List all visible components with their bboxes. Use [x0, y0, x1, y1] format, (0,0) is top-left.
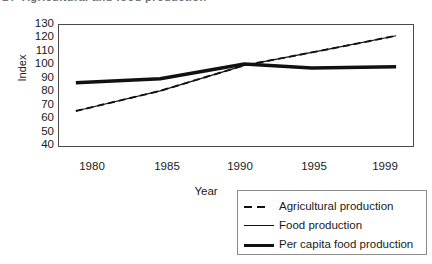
dashed-line-swatch-icon [244, 200, 274, 212]
x-tick-label: 1999 [360, 160, 410, 172]
y-tick-label: 90 [24, 72, 54, 83]
x-tick-label: 1990 [215, 160, 265, 172]
legend-label: Agricultural production [279, 200, 393, 212]
legend-label: Per capita food production [279, 238, 413, 250]
legend-item-food-production: Food production [244, 215, 426, 234]
y-tick-label: 110 [24, 45, 54, 56]
y-tick-label: 40 [24, 139, 54, 150]
x-tick-label: 1980 [67, 160, 117, 172]
y-tick-label: 50 [24, 126, 54, 137]
thick-line-swatch-icon [244, 238, 274, 250]
figure-title-clipped: 14 Agricultural and food production [0, 0, 432, 7]
y-tick-label: 120 [24, 31, 54, 42]
plot-area [58, 24, 414, 147]
chart-legend: Agricultural production Food production … [237, 190, 427, 255]
x-tick-label: 1985 [142, 160, 192, 172]
y-tick-label: 100 [24, 58, 54, 69]
y-axis-ticks: 130 120 110 100 90 80 70 60 50 40 [22, 0, 54, 264]
y-tick-label: 60 [24, 112, 54, 123]
figure-number: 14 [2, 0, 14, 3]
legend-item-per-capita-food-production: Per capita food production [244, 234, 426, 253]
y-tick-label: 70 [24, 99, 54, 110]
series-per-capita-food-production-line [76, 64, 396, 83]
thin-line-swatch-icon [244, 219, 274, 231]
legend-item-agricultural-production: Agricultural production [244, 196, 426, 215]
y-tick-label: 80 [24, 85, 54, 96]
x-tick-label: 1995 [289, 160, 339, 172]
chart-figure: 14 Agricultural and food production Inde… [0, 0, 432, 264]
x-axis-ticks: 1980 1985 1990 1995 1999 [0, 160, 432, 176]
y-tick-label: 130 [24, 18, 54, 29]
x-axis-label: Year [178, 185, 234, 197]
legend-label: Food production [279, 219, 362, 231]
series-canvas [59, 25, 413, 146]
series-agricultural-production-line [76, 36, 396, 111]
